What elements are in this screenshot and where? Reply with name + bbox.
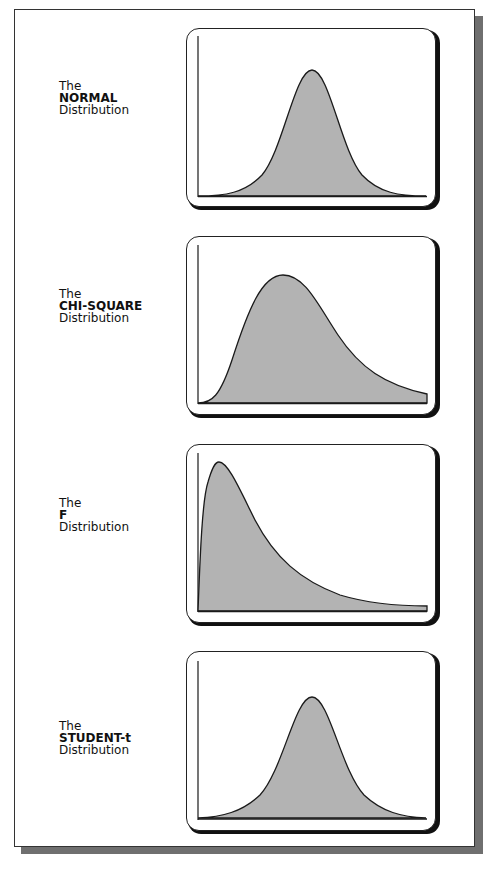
student-t-curve-chart <box>0 0 485 869</box>
student-t-curve <box>198 697 426 818</box>
